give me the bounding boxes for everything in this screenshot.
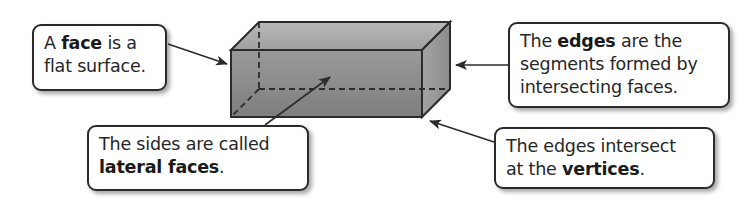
prism-top-face (231, 22, 450, 50)
vertices-line-1: The edges intersect (506, 135, 703, 158)
face-line-1: A face is a (44, 32, 155, 55)
edges-line-2: segments formed by (520, 53, 718, 76)
vertices-line-2: at the vertices. (506, 158, 703, 181)
callout-lateral-faces: The sides are called lateral faces. (87, 125, 309, 191)
rectangular-prism (231, 22, 450, 117)
term-lateral-faces: lateral faces (99, 157, 219, 177)
edges-line-3: intersecting faces. (520, 76, 718, 99)
vertices-arrow (430, 121, 494, 142)
callout-vertices: The edges intersect at the vertices. (494, 127, 715, 189)
lateral-line-2: lateral faces. (99, 156, 297, 179)
term-vertices: vertices (562, 159, 639, 179)
term-edges: edges (557, 31, 615, 51)
callout-edges: The edges are the segments formed by int… (508, 22, 730, 108)
term-face: face (61, 33, 102, 53)
face-arrow (168, 44, 227, 64)
lateral-line-1: The sides are called (99, 133, 297, 156)
edges-line-1: The edges are the (520, 30, 718, 53)
face-line-2: flat surface. (44, 55, 155, 78)
callout-face: A face is a flat surface. (32, 24, 167, 91)
